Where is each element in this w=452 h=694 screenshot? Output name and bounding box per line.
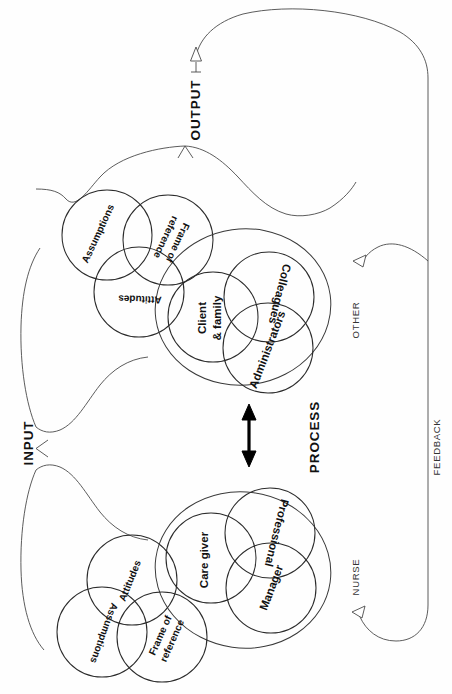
label-input: INPUT	[21, 421, 36, 466]
diagram-canvas: OUTPUT INPUT PROCESS OTHER NURSE FEEDBAC…	[0, 0, 452, 694]
label-professional: Professional	[263, 498, 291, 568]
svg-text:Client: Client	[196, 302, 208, 334]
label-nurse: NURSE	[350, 559, 361, 596]
label-output: OUTPUT	[188, 80, 203, 141]
label-manager: Manager	[257, 563, 285, 612]
label-other: OTHER	[350, 302, 361, 339]
label-client-and-family: Client & family	[196, 295, 223, 340]
svg-text:& family: & family	[211, 295, 223, 340]
group-nurse-perception-set	[57, 535, 207, 682]
label-feedback: FEEDBACK	[431, 419, 442, 476]
output-feedback-arrowhead	[191, 47, 202, 61]
label-nurse-assumptions: Assumptions	[88, 602, 120, 666]
other-feedback-hook	[353, 244, 428, 267]
label-other-frame-of-reference: Frame of reference	[151, 215, 192, 266]
flow-diagram: OUTPUT INPUT PROCESS OTHER NURSE FEEDBAC…	[0, 0, 452, 694]
process-double-arrow	[242, 404, 256, 467]
label-other-assumptions: Assumptions	[79, 202, 116, 264]
label-other-attitudes: Attitudes	[118, 293, 162, 306]
other-feedback-arrowhead	[353, 255, 366, 267]
circle-care-giver	[166, 513, 256, 603]
group-other-perception-set	[62, 190, 213, 337]
label-care-giver: Care giver	[198, 531, 210, 588]
label-process: PROCESS	[307, 401, 322, 473]
nurse-feedback-arrowhead	[352, 606, 365, 618]
feedback-loop-path	[191, 9, 429, 641]
